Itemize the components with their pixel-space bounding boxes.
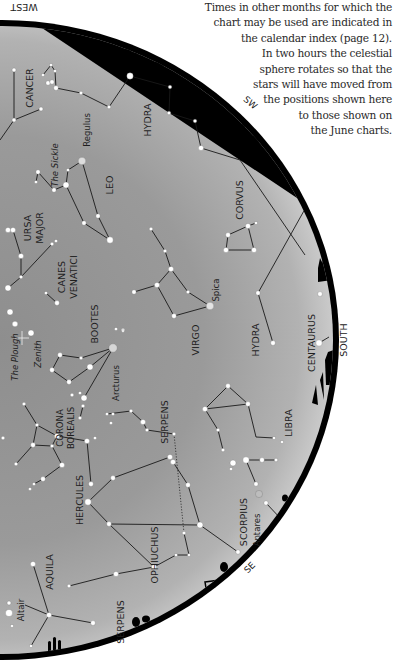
star-icon [52,188,56,192]
star-icon [168,85,172,89]
star-icon [58,353,63,358]
star-icon [19,275,23,279]
star-icon [107,522,112,527]
star-icon [12,118,16,122]
star-icon [67,584,71,588]
star-icon [35,423,39,427]
constellation-label: CANES [56,261,67,293]
star-icon [93,436,96,439]
star-icon [174,553,177,556]
star-icon [36,170,40,174]
star-icon [89,482,94,487]
star-icon [70,393,74,397]
star-icon [10,227,15,232]
star-icon [78,157,86,165]
star-icon [226,233,231,238]
constellation-label: Altair [16,598,26,621]
star-icon [206,302,214,310]
star-icon [245,223,250,228]
constellation-label: Antares [252,513,262,546]
constellation-label: OPHIUCHUS [149,527,160,584]
constellation-label: CANCER [24,68,35,108]
star-icon [41,73,44,76]
star-icon [113,571,118,576]
constellation-label: SERPENS [159,400,170,444]
star-icon [78,391,81,394]
star-icon [167,111,171,115]
star-chart: CANCERHYDRARegulusThe SickleLEOURSAMAJOR… [0,0,395,662]
constellation-label: CORONA [55,409,65,447]
star-icon [145,428,149,432]
star-icon [7,601,11,605]
star-icon [50,242,54,246]
constellation-label: MAJOR [34,212,45,244]
constellation-label: Spica [211,278,221,301]
star-icon [107,237,113,243]
constellation-label: HERCULES [74,475,85,525]
star-icon [172,314,177,319]
star-icon [29,644,32,647]
star-icon [271,341,276,346]
star-icon [163,249,167,253]
star-icon [105,412,108,415]
star-icon [149,227,153,231]
constellation-label: CENTAURUS [306,314,317,372]
star-icon [202,406,207,411]
star-icon [41,477,46,482]
star-icon [221,448,225,452]
star-icon [54,239,57,242]
star-icon [198,145,203,150]
star-icon [10,624,13,627]
star-icon [82,221,86,225]
star-icon [316,340,322,346]
star-icon [318,292,323,297]
star-icon [170,459,175,464]
star-icon [66,168,69,171]
constellation-label: LEO [104,176,115,195]
star-icon [172,432,176,436]
star-icon [5,227,10,232]
constellation-label: The Sickle [50,143,60,186]
constellation-label: Regulus [82,113,92,147]
star-icon [109,344,117,352]
constellation-label: HYDRA [250,323,261,356]
constellation-label: VENATICI [68,255,79,298]
star-icon [96,214,100,218]
constellation-label: VIRGO [190,325,201,356]
star-icon [50,444,54,448]
star-icon [44,291,47,294]
star-icon [127,73,133,79]
constellation-label: HYDRA [142,103,153,136]
star-icon [79,356,83,360]
star-icon [272,436,275,439]
constellation-label: BOREALIS [66,407,76,449]
star-icon [55,301,60,306]
star-icon [254,221,257,224]
star-icon [54,86,59,91]
star-icon [229,467,232,470]
star-icon [111,476,116,481]
star-icon [114,327,117,330]
star-icon [167,454,172,459]
star-icon [168,266,173,271]
constellation-label: LIBRA [283,409,294,437]
star-icon [186,290,190,294]
star-icon [154,282,159,287]
constellation-label: CORVUS [234,180,245,220]
direction-sw: SW [242,94,260,111]
star-icon [78,416,82,420]
constellation-label: Arcturus [111,365,121,401]
constellation-label: Zenith [33,340,43,369]
star-icon [216,428,220,432]
star-icon [187,553,190,556]
star-icon [254,482,258,486]
star-icon [18,253,23,258]
star-icon [186,483,191,488]
star-icon [109,421,112,424]
direction-west: WEST [10,2,37,13]
star-icon [182,531,186,535]
star-icon [193,119,197,123]
star-icon [12,68,16,72]
constellation-label: AQUILA [44,554,55,590]
star-icon [50,368,55,373]
